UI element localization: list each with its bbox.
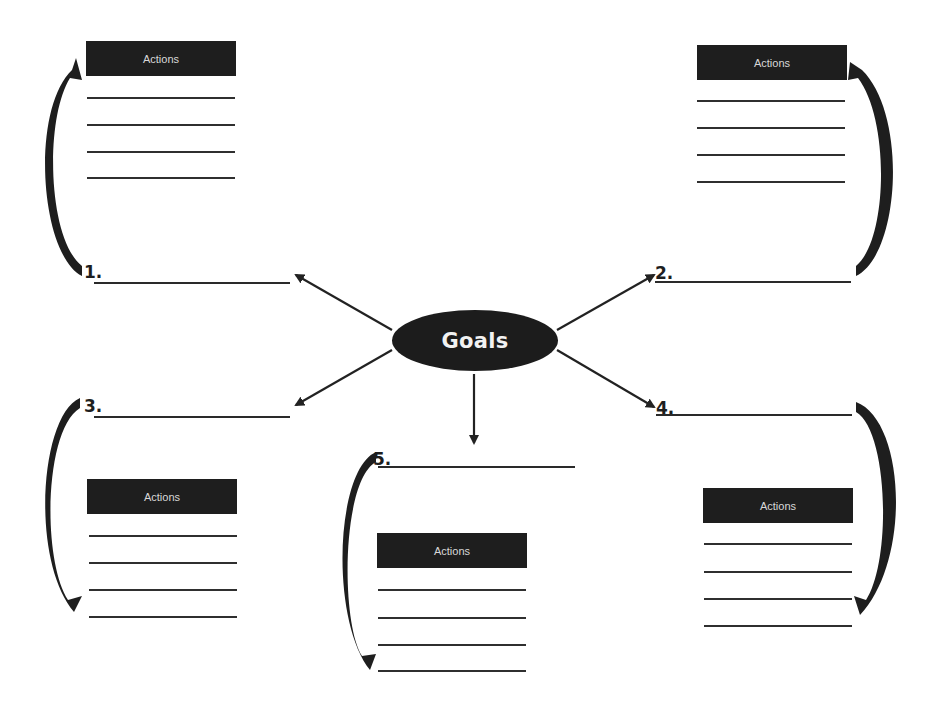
goal-number-1: 1. [84, 262, 102, 282]
action-5-line-3[interactable] [378, 644, 526, 646]
goal-5-blank-line[interactable] [378, 466, 575, 468]
action-1-line-1[interactable] [87, 97, 235, 99]
goal-number-3: 3. [84, 396, 102, 416]
action-2-line-4[interactable] [697, 181, 845, 183]
action-3-line-4[interactable] [89, 616, 237, 618]
curved-arrow-2 [848, 62, 893, 276]
action-2-line-3[interactable] [697, 154, 845, 156]
arrow-to-goal-1 [296, 275, 392, 330]
goals-center-node: Goals [392, 310, 558, 371]
actions-header-2: Actions [697, 45, 847, 80]
arrow-to-goal-3 [296, 350, 392, 405]
action-2-line-1[interactable] [697, 100, 845, 102]
arrow-to-goal-2 [557, 275, 654, 330]
action-5-line-4[interactable] [378, 670, 526, 672]
curved-arrow-1 [45, 58, 82, 276]
curved-arrow-3 [45, 398, 82, 612]
goal-4-blank-line[interactable] [656, 414, 852, 416]
curved-arrow-5 [342, 452, 376, 670]
action-4-line-3[interactable] [704, 598, 852, 600]
goal-number-2: 2. [655, 263, 673, 283]
actions-header-3: Actions [87, 479, 237, 514]
actions-header-5: Actions [377, 533, 527, 568]
action-3-line-3[interactable] [89, 589, 237, 591]
curved-arrow-4 [854, 402, 896, 615]
action-1-line-3[interactable] [87, 151, 235, 153]
actions-header-4: Actions [703, 488, 853, 523]
goal-2-blank-line[interactable] [655, 281, 851, 283]
action-3-line-1[interactable] [89, 535, 237, 537]
goal-1-blank-line[interactable] [94, 282, 290, 284]
action-4-line-1[interactable] [704, 543, 852, 545]
arrow-to-goal-4 [557, 350, 654, 407]
actions-header-1: Actions [86, 41, 236, 76]
action-5-line-1[interactable] [378, 589, 526, 591]
action-5-line-2[interactable] [378, 617, 526, 619]
goals-center-label: Goals [441, 329, 508, 353]
action-1-line-4[interactable] [87, 177, 235, 179]
action-1-line-2[interactable] [87, 124, 235, 126]
action-3-line-2[interactable] [89, 562, 237, 564]
action-4-line-4[interactable] [704, 625, 852, 627]
action-4-line-2[interactable] [704, 571, 852, 573]
action-2-line-2[interactable] [697, 127, 845, 129]
goal-3-blank-line[interactable] [94, 416, 290, 418]
